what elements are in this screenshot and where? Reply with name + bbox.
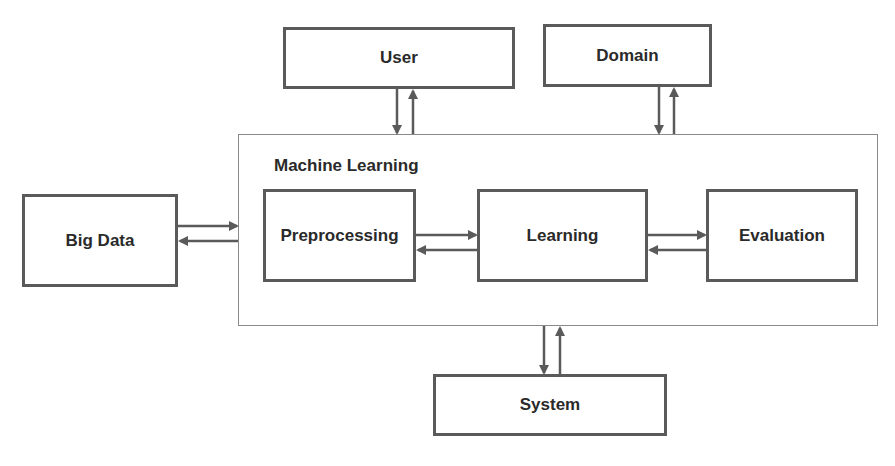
connector-arrows — [0, 0, 895, 466]
